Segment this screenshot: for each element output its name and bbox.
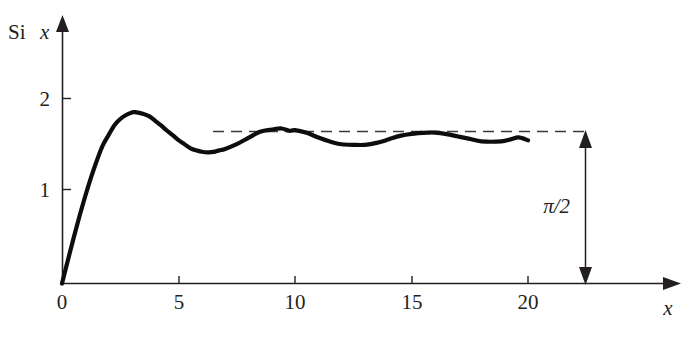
axes-group: [56, 15, 681, 290]
y-axis-arrowhead: [56, 15, 69, 32]
x-tick-label-10: 10: [285, 290, 306, 314]
pi-over-two-label: π/2: [543, 194, 570, 218]
x-tick-label-15: 15: [402, 290, 423, 314]
sine-integral-figure: 0 5 10 15 20 1 2 Si x x π/2: [0, 0, 698, 340]
pi-over-two-measure: π/2: [543, 130, 592, 285]
measure-arrowhead-down: [579, 267, 592, 285]
x-tick-labels: 0 5 10 15 20: [57, 290, 539, 314]
x-tick-label-5: 5: [174, 290, 185, 314]
y-axis-label-variable: x: [39, 20, 50, 44]
x-tick-label-0: 0: [57, 290, 68, 314]
x-axis-arrowhead: [663, 277, 681, 290]
si-curve: [62, 112, 528, 283]
y-tick-label-1: 1: [40, 178, 51, 202]
y-tick-labels: 1 2: [40, 87, 51, 202]
x-axis-label: x: [662, 296, 673, 320]
y-tick-label-2: 2: [40, 87, 51, 111]
plot-area: 0 5 10 15 20 1 2 Si x x π/2: [0, 0, 698, 340]
measure-arrowhead-up: [579, 130, 592, 148]
x-tick-marks: [179, 276, 528, 284]
y-tick-marks: [63, 99, 72, 190]
y-axis-label-prefix: Si: [8, 20, 26, 44]
x-tick-label-20: 20: [518, 290, 539, 314]
